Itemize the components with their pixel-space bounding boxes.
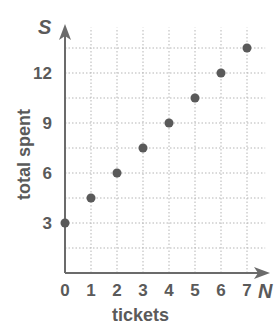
data-point — [113, 169, 122, 178]
scatter-chart: 01234567 36912 S N tickets total spent — [0, 0, 279, 332]
y-axis-variable: S — [38, 16, 52, 38]
data-point — [165, 119, 174, 128]
y-tick-label: 3 — [43, 214, 52, 233]
x-tick-labels: 01234567 — [60, 281, 251, 300]
data-point — [191, 94, 200, 103]
data-point — [139, 144, 148, 153]
y-tick-label: 12 — [33, 64, 52, 83]
data-points — [61, 44, 252, 228]
x-tick-label: 6 — [216, 281, 225, 300]
x-tick-label: 0 — [60, 281, 69, 300]
data-point — [87, 194, 96, 203]
x-axis-label: tickets — [112, 305, 169, 325]
data-point — [243, 44, 252, 53]
x-tick-label: 2 — [112, 281, 121, 300]
x-tick-label: 5 — [190, 281, 199, 300]
grid-lines — [65, 28, 265, 273]
y-tick-label: 9 — [43, 114, 52, 133]
data-point — [61, 219, 70, 228]
x-tick-label: 1 — [86, 281, 95, 300]
y-axis-label: total spent — [14, 109, 34, 200]
data-point — [217, 69, 226, 78]
y-tick-label: 6 — [43, 164, 52, 183]
x-axis-variable: N — [258, 280, 273, 302]
y-tick-labels: 36912 — [33, 64, 52, 233]
x-tick-label: 4 — [164, 281, 174, 300]
x-tick-label: 7 — [242, 281, 251, 300]
x-tick-label: 3 — [138, 281, 147, 300]
